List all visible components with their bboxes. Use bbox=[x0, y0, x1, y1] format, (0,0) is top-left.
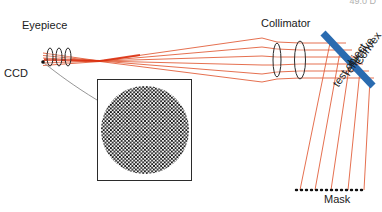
ccd-image-inset bbox=[97, 79, 192, 181]
collimator-lens-2 bbox=[295, 41, 306, 79]
label-eyepiece: Eyepiece bbox=[22, 20, 67, 31]
checkerboard-pattern-disc bbox=[101, 86, 189, 174]
label-ccd: CCD bbox=[4, 68, 28, 79]
label-cropped-header-text: 49.0 D bbox=[349, 0, 376, 6]
ccd-to-inset-leader bbox=[44, 63, 97, 100]
eyepiece-lens-1 bbox=[47, 48, 53, 66]
eyepiece-lens-2 bbox=[56, 48, 62, 66]
collimator-lens-group bbox=[273, 41, 306, 79]
collimator-lens-1 bbox=[273, 43, 281, 77]
label-collimator: Collimator bbox=[261, 18, 311, 29]
optical-diagram-figure: Eyepiece CCD Collimator Mask 49.0 D Conv… bbox=[0, 0, 382, 212]
eyepiece-lens-3 bbox=[65, 48, 71, 66]
label-mask: Mask bbox=[324, 194, 350, 205]
eyepiece-lens-group bbox=[47, 48, 71, 66]
